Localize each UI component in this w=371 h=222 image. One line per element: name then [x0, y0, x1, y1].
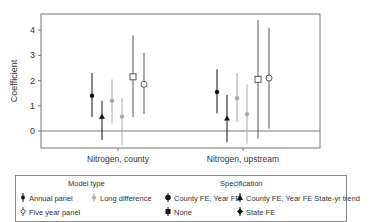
- legend-label: Long difference: [100, 194, 152, 203]
- legend-label: None: [174, 208, 192, 217]
- legend-label: Five year panel: [29, 208, 80, 217]
- coefficient-plot: 01234 Nitrogen, countyNitrogen, upstream…: [0, 0, 371, 175]
- y-tick-label: 0: [30, 126, 35, 136]
- y-tick-label: 3: [30, 50, 35, 60]
- legend-label: County FE, Year FE: [174, 194, 240, 203]
- data-points: [90, 20, 272, 145]
- legend-item-annual-panel: Annual panel: [19, 193, 73, 204]
- y-tick-label: 2: [30, 76, 35, 86]
- y-axis-label: Coefficient: [9, 59, 19, 102]
- legend-item-long-difference: Long difference: [90, 193, 152, 204]
- x-tick-label: Nitrogen, upstream: [207, 154, 279, 164]
- data-point: [90, 73, 94, 117]
- legend-item-state-fe: State FE: [236, 207, 275, 218]
- triangle-marker-icon: [236, 193, 244, 204]
- y-axis: 01234: [30, 25, 41, 136]
- data-point: [215, 69, 219, 113]
- long-difference-marker-icon: [90, 193, 98, 204]
- data-point: [235, 73, 239, 122]
- legend-label: State FE: [246, 208, 275, 217]
- data-point: [266, 28, 272, 129]
- legend-label: County FE, Year FE State-yr trend: [246, 194, 360, 203]
- annual-panel-marker-icon: [19, 193, 27, 204]
- legend-item-five-year-panel: Five year panel: [19, 207, 80, 218]
- diamond-marker-icon: [236, 207, 244, 218]
- legend-title-model-type: Model type: [68, 179, 105, 188]
- x-tick-label: Nitrogen, county: [87, 154, 150, 164]
- five-year-panel-marker-icon: [19, 207, 27, 218]
- y-tick-label: 1: [30, 101, 35, 111]
- legend-item-none: None: [164, 207, 192, 218]
- legend-title-specification: Specification: [220, 179, 263, 188]
- legend-item-county-year-fe: County FE, Year FE: [164, 193, 240, 204]
- data-point: [255, 20, 261, 138]
- y-tick-label: 4: [30, 25, 35, 35]
- data-point: [245, 84, 249, 143]
- legend-label: Annual panel: [29, 194, 73, 203]
- data-point: [120, 98, 124, 145]
- circle-marker-icon: [164, 193, 172, 204]
- x-axis: Nitrogen, countyNitrogen, upstream: [87, 148, 279, 164]
- plot-frame: [41, 14, 320, 148]
- data-point: [224, 95, 230, 142]
- data-point: [110, 79, 114, 123]
- data-point: [99, 101, 105, 140]
- legend-item-state-yr-trend: County FE, Year FE State-yr trend: [236, 193, 360, 204]
- data-point: [130, 35, 136, 117]
- data-point: [141, 53, 147, 114]
- legend: Model type Specification Annual panel Lo…: [15, 175, 347, 222]
- square-marker-icon: [164, 207, 172, 218]
